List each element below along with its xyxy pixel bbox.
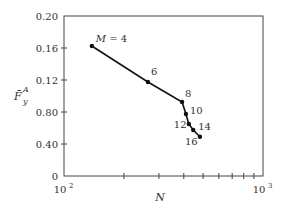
y-tick-label: 0 <box>52 171 58 182</box>
y-axis-title-sub: y <box>22 97 28 106</box>
data-point <box>198 135 202 139</box>
point-label: 10 <box>190 105 203 116</box>
x-tick-exponent: 3 <box>268 182 272 190</box>
x-tick-label: 10 <box>253 184 266 195</box>
y-tick-label: 0.40 <box>36 139 58 150</box>
y-axis-ticks: 00.400.800.120.160.20 <box>36 11 67 182</box>
point-label: 6 <box>151 66 157 77</box>
x-tick-label: 10 <box>54 184 67 195</box>
data-point <box>191 128 195 132</box>
data-point <box>187 122 191 126</box>
point-label: 8 <box>185 88 191 99</box>
data-point <box>184 112 188 116</box>
x-tick-exponent: 2 <box>69 182 73 190</box>
y-axis-title: F̄ y A <box>13 85 29 106</box>
data-point <box>180 100 184 104</box>
data-point <box>146 80 150 84</box>
y-tick-label: 0.80 <box>36 107 58 118</box>
point-label: 12 <box>174 119 187 130</box>
y-tick-label: 0.12 <box>36 75 58 86</box>
point-label: 16 <box>185 136 198 147</box>
y-tick-label: 0.20 <box>36 11 58 22</box>
point-label: 14 <box>198 121 211 132</box>
y-axis-title-sup: A <box>22 85 29 94</box>
chart: 00.400.800.120.160.20 102103 M = 4681012… <box>0 0 284 212</box>
plot-frame <box>64 16 263 176</box>
x-axis-title: N <box>154 191 165 204</box>
y-tick-label: 0.16 <box>36 43 58 54</box>
point-label: M = 4 <box>95 33 127 44</box>
data-point <box>90 44 94 48</box>
y-axis-title-main: F̄ <box>13 90 22 103</box>
